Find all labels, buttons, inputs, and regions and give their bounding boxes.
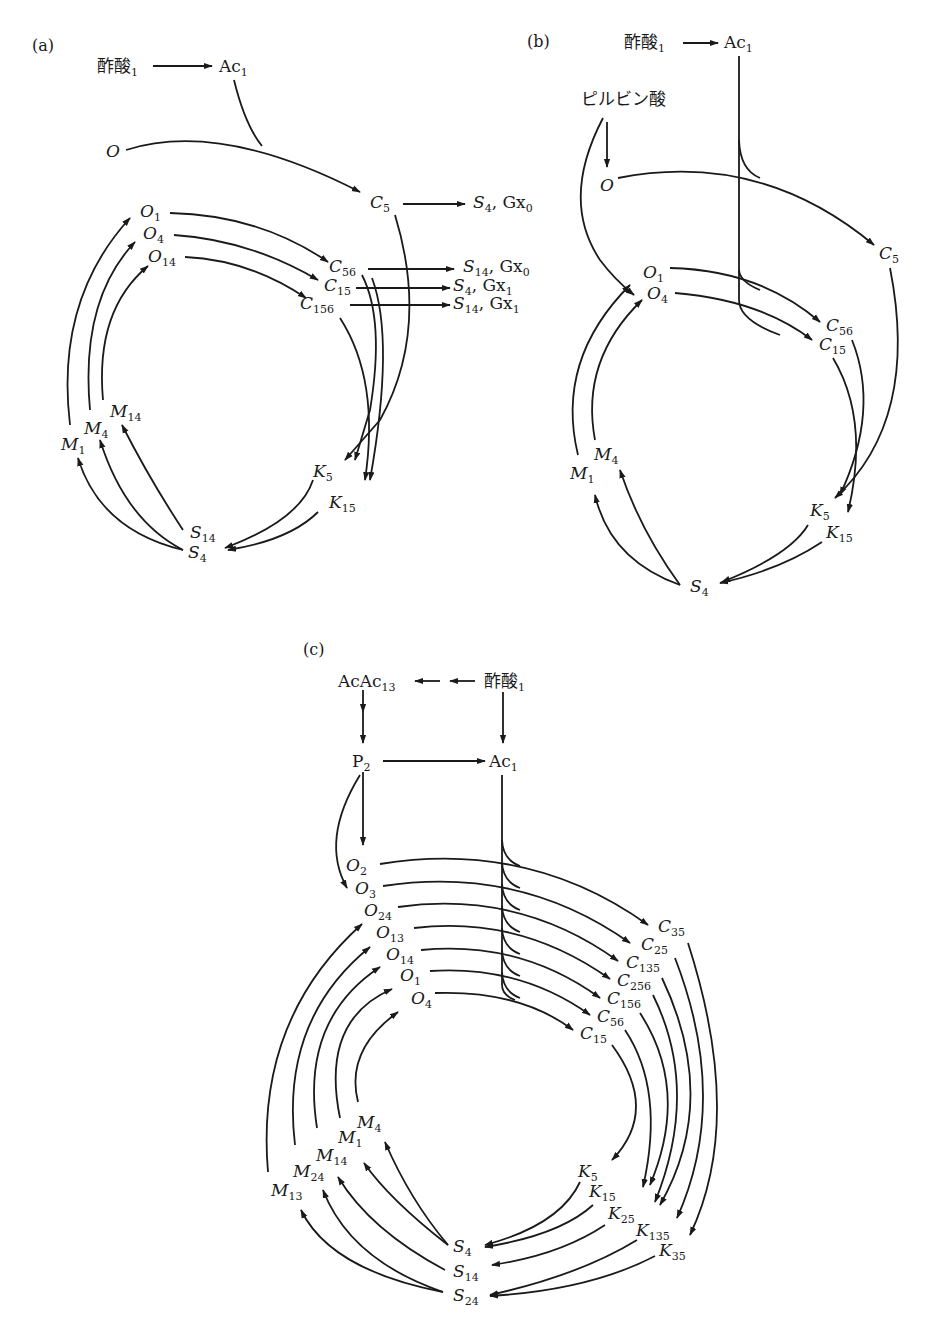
node-c156-c: C156 xyxy=(607,990,641,1010)
node-ac1-b: Ac1 xyxy=(724,34,753,54)
node-o24-c: O24 xyxy=(364,902,392,922)
node-c35-c: C35 xyxy=(658,918,685,938)
node-m1-c: M1 xyxy=(338,1129,362,1149)
product-s4-gx0-a: S4, Gx0 xyxy=(473,194,533,214)
node-o4-a: O4 xyxy=(143,225,164,245)
node-s24-c: S24 xyxy=(453,1287,479,1307)
node-o14-c: O14 xyxy=(386,946,414,966)
node-ac1-c: Ac1 xyxy=(489,753,518,773)
node-o1-c: O1 xyxy=(400,967,421,987)
node-c5-b: C5 xyxy=(879,245,899,265)
node-acac13-c: AcAc13 xyxy=(338,673,396,693)
node-k15-b: K15 xyxy=(826,524,853,544)
node-s14-c: S14 xyxy=(453,1263,479,1283)
node-o4-b: O4 xyxy=(647,285,668,305)
node-m4-a: M4 xyxy=(84,420,108,440)
node-m4-b: M4 xyxy=(594,446,618,466)
node-k5-b: K5 xyxy=(810,502,830,522)
node-ac1-a: Ac1 xyxy=(219,58,248,78)
node-o1-a: O1 xyxy=(140,203,161,223)
node-m24-c: M24 xyxy=(293,1163,324,1183)
node-k135-c: K135 xyxy=(636,1222,670,1242)
node-k15-a: K15 xyxy=(329,494,356,514)
node-s4-b: S4 xyxy=(690,578,709,598)
node-c25-c: C25 xyxy=(641,936,668,956)
node-o4-c: O4 xyxy=(411,990,432,1010)
node-s14-a: S14 xyxy=(190,524,216,544)
node-acetate-b: 酢酸1 xyxy=(624,34,665,54)
node-o14-a: O14 xyxy=(148,248,176,268)
node-o-a: O xyxy=(106,143,120,160)
node-p2-c: P2 xyxy=(352,753,370,773)
node-k15-c: K15 xyxy=(589,1183,616,1203)
panel-label-a: (a) xyxy=(32,36,54,55)
node-c15-b: C15 xyxy=(819,336,846,356)
node-k35-c: K35 xyxy=(659,1242,686,1262)
node-k5-c: K5 xyxy=(578,1163,598,1183)
panel-label-c: (c) xyxy=(303,640,324,659)
node-m14-a: M14 xyxy=(110,403,141,423)
node-c5-a: C5 xyxy=(370,194,390,214)
node-c256-c: C256 xyxy=(617,972,651,992)
node-o3-c: O3 xyxy=(355,880,376,900)
node-acetate-a: 酢酸1 xyxy=(97,58,138,78)
node-acetate-c: 酢酸1 xyxy=(484,673,525,693)
node-c156-a: C156 xyxy=(300,295,334,315)
node-c15-c: C15 xyxy=(580,1025,607,1045)
node-o13-c: O13 xyxy=(376,924,404,944)
node-m1-b: M1 xyxy=(570,465,594,485)
node-k5-a: K5 xyxy=(313,463,333,483)
node-pyruvate-b: ピルビン酸 xyxy=(581,91,666,108)
node-o-b: O xyxy=(600,177,614,194)
node-o1-b: O1 xyxy=(643,264,664,284)
node-c15-a: C15 xyxy=(324,277,351,297)
node-s4-a: S4 xyxy=(188,544,207,564)
node-s4-c: S4 xyxy=(453,1238,472,1258)
product-s14-gx1-a: S14, Gx1 xyxy=(453,295,520,315)
node-m1-a: M1 xyxy=(61,436,85,456)
node-m13-c: M13 xyxy=(271,1182,302,1202)
node-o2-c: O2 xyxy=(346,857,367,877)
node-c135-c: C135 xyxy=(626,954,660,974)
node-k25-c: K25 xyxy=(608,1205,635,1225)
panel-label-b: (b) xyxy=(527,32,550,51)
